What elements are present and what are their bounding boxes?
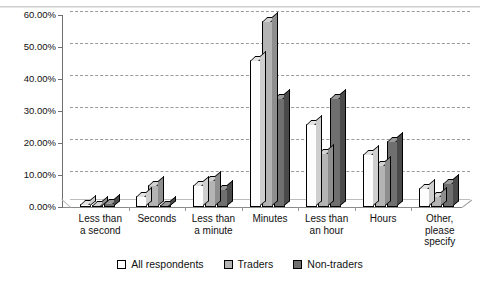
floor-right-edge [462,199,474,208]
light-gray-square-icon [224,260,233,269]
y-axis-tick-label: 0.00% [0,202,56,211]
y-axis-tick-mark [58,15,63,16]
legend-label: Traders [238,259,274,270]
y-axis-tick-label: 10.00% [0,170,56,179]
bar-2-0 [193,185,204,207]
bar-chart: 60.00%50.00%40.00%30.00%20.00%10.00%0.00… [0,0,480,283]
y-axis-tick-label: 50.00% [0,42,56,51]
bar-side-face [114,194,120,206]
legend-item-all-respondents: All respondents [117,259,203,270]
bar-side-face [203,176,209,206]
legend-item-traders: Traders [224,259,274,270]
chart-legend: All respondents Traders Non-traders [0,259,480,270]
white-square-icon [117,260,126,269]
y-axis-tick-mark [58,207,63,208]
bar-side-face [328,144,334,206]
bar-0-1 [92,205,103,207]
plot-area: 60.00%50.00%40.00%30.00%20.00%10.00%0.00… [0,0,480,283]
y-axis-tick-label: 20.00% [0,138,56,147]
bar-6-0 [419,188,430,207]
x-axis-line [62,207,462,208]
bar-side-face [170,196,176,206]
legend-label: All respondents [131,259,203,270]
bar-4-0 [306,124,317,207]
bar-side-face [215,171,221,206]
gridline [70,11,470,12]
y-axis-tick-mark [58,143,63,144]
bar-1-0 [136,196,147,207]
x-axis-tick-mark [242,207,243,211]
x-axis-tick-mark [411,207,412,211]
bar-side-face [373,145,379,206]
y-axis-tick-label: 60.00% [0,10,56,19]
bar-side-face [453,174,459,206]
legend-label: Non-traders [307,259,362,270]
bar-0-2 [104,203,115,207]
dark-gray-square-icon [293,260,302,269]
x-axis-category-label: Other, please specify [403,213,476,248]
bar-1-2 [160,205,171,207]
bar-side-face [284,89,290,206]
bar-side-face [158,176,164,206]
bar-3-0 [250,60,261,207]
y-axis-tick-mark [58,47,63,48]
bar-side-face [316,115,322,206]
bar-side-face [227,180,233,206]
x-axis-tick-mark [129,207,130,211]
x-axis-tick-mark [355,207,356,211]
y-axis-tick-label: 30.00% [0,106,56,115]
bar-side-face [260,51,266,206]
bar-side-face [340,89,346,206]
floor-left-edge [62,199,71,208]
bar-5-0 [363,154,374,207]
x-axis-tick-mark [298,207,299,211]
y-axis-tick-mark [58,175,63,176]
y-axis-tick-mark [58,79,63,80]
bar-side-face [397,132,403,206]
bar-side-face [385,156,391,206]
legend-item-non-traders: Non-traders [293,259,362,270]
bar-0-0 [80,204,91,207]
y-axis-tick-mark [58,111,63,112]
y-axis-tick-label: 40.00% [0,74,56,83]
bar-side-face [272,12,278,206]
x-axis-tick-mark [185,207,186,211]
